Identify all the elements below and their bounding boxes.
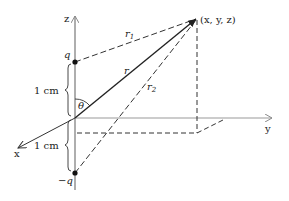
theta-label: θ <box>78 100 84 111</box>
upper-brace <box>65 64 71 116</box>
lower-spacing-label: 1 cm <box>34 140 59 151</box>
lower-brace <box>65 120 71 171</box>
r1-vector <box>75 19 196 62</box>
dipole-diagram: z y x r1 r2 r <box>0 0 289 201</box>
r1-label: r1 <box>125 28 134 41</box>
diagonal-projection <box>197 119 225 133</box>
y-axis-label: y <box>264 123 271 134</box>
positive-charge-label: q <box>64 49 70 60</box>
field-point-label: (x, y, z) <box>200 14 236 25</box>
negative-charge-dot <box>72 170 77 175</box>
positive-charge-dot <box>72 59 77 64</box>
z-axis-label: z <box>64 13 69 24</box>
upper-spacing-label: 1 cm <box>34 85 59 96</box>
r2-label: r2 <box>147 81 157 94</box>
r-vector <box>75 19 196 118</box>
r2-vector <box>75 20 196 173</box>
x-axis-label: x <box>14 148 20 159</box>
negative-charge-label: −q <box>58 175 73 186</box>
